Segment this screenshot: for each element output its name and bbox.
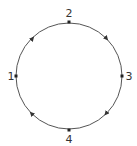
node-label-2: 2: [66, 7, 73, 20]
nodes: [15, 21, 124, 132]
edge-arrows: [30, 35, 110, 117]
node-label-4: 4: [66, 133, 73, 146]
node-1: [15, 75, 18, 78]
node-labels: 1 2 3 4: [8, 7, 133, 146]
node-3: [121, 75, 124, 78]
node-label-1: 1: [8, 70, 15, 83]
node-label-3: 3: [126, 70, 133, 83]
cycle-diagram: 1 2 3 4: [0, 0, 137, 146]
cycle-circle: [16, 23, 122, 129]
node-2: [68, 21, 71, 24]
node-4: [68, 129, 71, 132]
